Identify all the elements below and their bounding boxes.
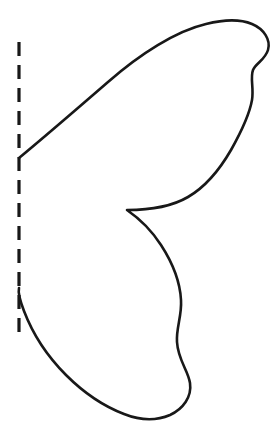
wing-template-figure bbox=[0, 0, 280, 433]
drawing-canvas bbox=[0, 0, 280, 433]
canvas-background bbox=[0, 0, 280, 433]
